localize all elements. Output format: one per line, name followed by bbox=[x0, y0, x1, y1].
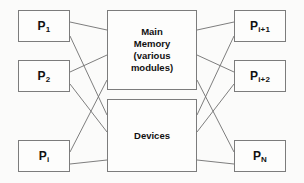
processor-label-pi: Pi bbox=[39, 150, 50, 162]
wire-p1-to-devices bbox=[70, 36, 107, 115]
processor-label-pi-plus-2: Pi+2 bbox=[250, 70, 270, 82]
main-memory-line-2: Memory bbox=[134, 38, 170, 50]
processor-label-p2: P2 bbox=[38, 70, 51, 82]
processor-box-p2[interactable]: P2 bbox=[18, 60, 70, 92]
wire-devices-to-pi1 bbox=[197, 36, 234, 115]
main-memory-box[interactable]: Main Memory (various modules) bbox=[107, 10, 197, 90]
wire-devices-to-pn bbox=[197, 160, 234, 164]
main-memory-line-1: Main bbox=[141, 26, 163, 38]
processor-label-pi-plus-1: Pi+1 bbox=[250, 20, 270, 32]
devices-box[interactable]: Devices bbox=[107, 99, 197, 172]
main-memory-line-3: (various bbox=[134, 50, 171, 62]
smp-architecture-diagram: P1 P2 Pi Main Memory (various modules) D… bbox=[0, 0, 304, 183]
processor-box-pi[interactable]: Pi bbox=[18, 140, 70, 172]
processor-label-pn: PN bbox=[253, 150, 267, 162]
devices-label: Devices bbox=[134, 130, 170, 142]
processor-box-pi-plus-1[interactable]: Pi+1 bbox=[234, 10, 286, 42]
processor-box-pn[interactable]: PN bbox=[234, 140, 286, 172]
main-memory-line-4: modules) bbox=[131, 62, 173, 74]
processor-box-p1[interactable]: P1 bbox=[18, 10, 70, 42]
processor-label-p1: P1 bbox=[38, 20, 51, 32]
wire-main-memory-to-pi2 bbox=[197, 55, 234, 72]
processor-box-pi-plus-2[interactable]: Pi+2 bbox=[234, 60, 286, 92]
wire-pi-to-devices bbox=[70, 160, 107, 164]
wire-p2-to-main-memory bbox=[70, 55, 107, 72]
wire-main-memory-to-pi1 bbox=[197, 22, 234, 30]
wire-p1-to-main-memory bbox=[70, 22, 107, 30]
